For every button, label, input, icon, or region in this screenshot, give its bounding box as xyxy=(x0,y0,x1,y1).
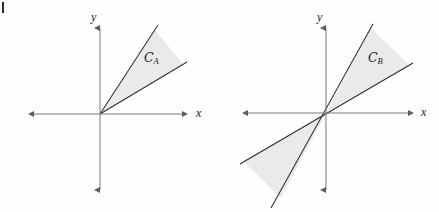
x-axis-label-a: x xyxy=(196,107,201,119)
figure-canvas: y x CA y x CB xyxy=(0,0,439,212)
x-axis-label-b: x xyxy=(421,106,426,118)
cone-a-label: CA xyxy=(144,52,159,66)
cone-b-shaded-region-upper xyxy=(326,28,409,113)
cones-figure-svg xyxy=(0,0,439,212)
y-axis-label-a: y xyxy=(91,11,96,23)
cone-a-label-symbol: C xyxy=(144,50,154,65)
panel-a-group xyxy=(34,25,187,190)
crop-tick-mark xyxy=(2,2,4,13)
y-axis-label-b: y xyxy=(317,11,322,23)
panel-b-group xyxy=(240,24,413,208)
cone-b-label-symbol: C xyxy=(368,50,378,65)
cone-b-label-subscript: B xyxy=(378,56,383,66)
cone-b-label: CB xyxy=(368,52,383,66)
cone-a-label-subscript: A xyxy=(154,56,159,66)
